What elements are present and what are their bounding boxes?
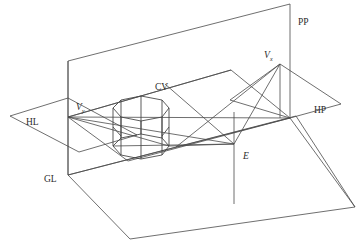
ray-VPleft-to-far-corner [68,70,231,117]
ground-plane-outline [68,116,355,239]
ray-CV-to-E [165,84,234,144]
label-picture-plane: PP [298,17,309,27]
label-horizon-line: HL [26,117,39,127]
label-vanishing-point-left: V y [76,102,85,114]
picture-plane-group [68,4,290,175]
perspective-diagram-canvas: PP HL GL HP CV E V y V x [0,0,362,243]
picture-plane-outline [68,4,290,175]
ray-VPleft-to-right-edge [68,117,290,118]
construction-rays-group [68,61,355,207]
label-center-of-vision: CV [155,82,168,92]
label-vp-left-subscript: y [81,108,85,114]
ground-plane-group [68,116,355,239]
label-horizontal-plane: HP [314,105,326,115]
octagonal-prism-group [113,96,169,159]
labels-group: PP HL GL HP CV E V y V x [26,17,326,184]
label-vanishing-point-right: V x [264,50,273,62]
ray-VPleft-tangent-upper [68,117,169,146]
label-vp-right-subscript: x [269,56,273,62]
label-ground-line: GL [44,174,57,184]
ray-HP-corner-to-ground [290,118,355,207]
label-eye-point: E [242,151,249,161]
prism-girth-right [162,127,169,136]
perspective-projection-figure: PP HL GL HP CV E V y V x [0,0,362,243]
